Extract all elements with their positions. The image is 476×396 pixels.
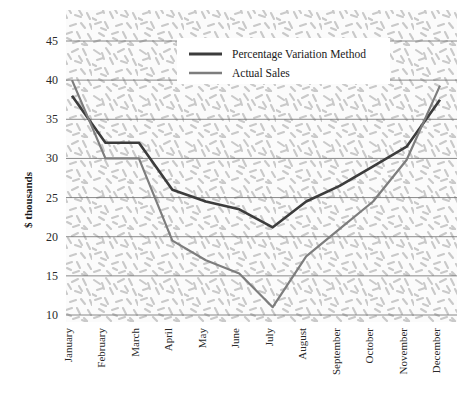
x-axis-tick-label: October bbox=[363, 328, 375, 364]
y-axis-tick-label: 30 bbox=[46, 151, 58, 165]
x-axis-tick-label: November bbox=[397, 328, 409, 375]
y-axis-title: $ thousands bbox=[22, 171, 34, 228]
x-axis-tick-label: May bbox=[196, 328, 208, 349]
y-axis-tick-label: 25 bbox=[46, 191, 58, 205]
y-axis-tick-label: 20 bbox=[46, 230, 58, 244]
y-axis-tick-labels: 1015202530354045 bbox=[46, 34, 58, 322]
x-axis-tick-label: January bbox=[62, 328, 74, 363]
x-axis-tick-label: September bbox=[330, 328, 342, 375]
line-chart: 1015202530354045 $ thousands JanuaryFebr… bbox=[0, 0, 476, 396]
y-axis-tick-label: 35 bbox=[46, 112, 58, 126]
y-axis-tick-label: 15 bbox=[46, 269, 58, 283]
legend-label-actual-sales: Actual Sales bbox=[232, 67, 290, 79]
y-axis-tick-label: 45 bbox=[46, 34, 58, 48]
x-axis-tick-label: March bbox=[129, 328, 141, 357]
x-axis-tick-label: April bbox=[162, 328, 174, 351]
legend-label-percentage-variation-method: Percentage Variation Method bbox=[232, 48, 366, 61]
y-axis-tick-label: 10 bbox=[46, 308, 58, 322]
x-axis-tick-label: August bbox=[296, 328, 308, 360]
chart-container: 1015202530354045 $ thousands JanuaryFebr… bbox=[0, 0, 476, 396]
chart-legend: Percentage Variation Method Actual Sales bbox=[177, 38, 390, 84]
y-axis-tick-label: 40 bbox=[46, 73, 58, 87]
x-axis-tick-labels: JanuaryFebruaryMarchAprilMayJuneJulyAugu… bbox=[62, 328, 442, 376]
x-axis-tick-label: July bbox=[263, 328, 275, 347]
x-axis-tick-label: December bbox=[430, 328, 442, 374]
x-axis-tick-label: February bbox=[95, 328, 107, 368]
x-axis-tick-label: June bbox=[229, 328, 241, 348]
